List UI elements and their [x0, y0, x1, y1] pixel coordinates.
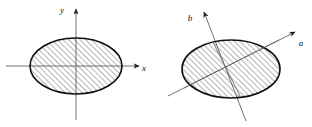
right-panel: a b	[168, 12, 304, 121]
left-panel: x y	[6, 5, 146, 120]
x-axis-label: x	[141, 63, 146, 73]
a-axis-label: a	[299, 38, 304, 48]
figure-container: x y a b	[0, 0, 312, 127]
ellipse-axes-figure: x y a b	[0, 0, 312, 127]
y-axis-label: y	[59, 5, 64, 15]
b-axis-label: b	[188, 13, 193, 23]
